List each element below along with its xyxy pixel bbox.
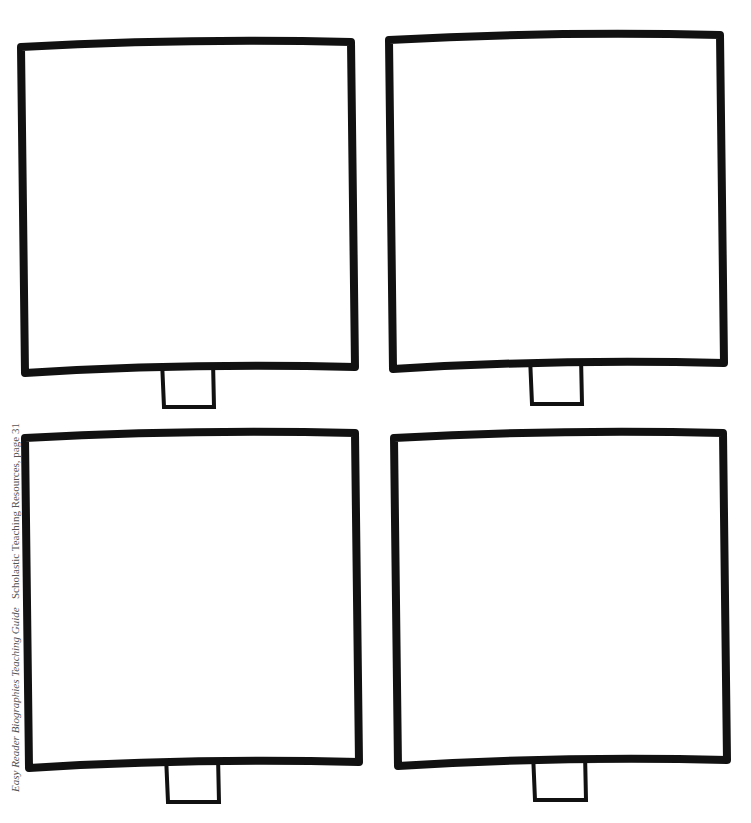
panel-frame: [394, 432, 727, 766]
page-credit: Easy Reader Biographies Teaching Guide S…: [9, 423, 21, 792]
credit-publisher: Scholastic Teaching Resources, page 31: [9, 423, 21, 599]
credit-book-title: Easy Reader Biographies Teaching Guide: [9, 607, 21, 792]
